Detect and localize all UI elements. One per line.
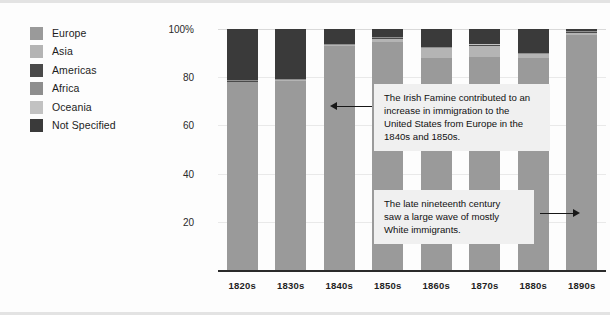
bar-segment (227, 82, 258, 270)
legend-item-label: Not Specified (52, 119, 116, 132)
annotation-line: United States from Europe in the (384, 117, 541, 130)
legend-item-label: Europe (52, 27, 86, 40)
bar-segment (324, 29, 355, 44)
annotation-line: The Irish Famine contributed to an (384, 91, 541, 104)
legend-item-label: Americas (52, 64, 97, 77)
annotation-line: saw a large wave of mostly (384, 210, 525, 223)
bar-segment (566, 35, 597, 270)
bar-segment (275, 81, 306, 270)
legend-item-label: Oceania (52, 101, 92, 114)
annotation-late-nineteenth-century: The late nineteenth centurysaw a large w… (374, 190, 534, 244)
legend-item-label: Asia (52, 45, 73, 58)
stacked-bar[interactable] (324, 29, 355, 270)
bar-segment (469, 46, 500, 57)
annotation-arrow-right (540, 208, 580, 218)
legend-item-label: Africa (52, 82, 79, 95)
bar-segment (518, 29, 549, 53)
y-axis-tick-label: 40 (160, 168, 194, 179)
stacked-bar[interactable] (227, 29, 258, 270)
chart-plot-area: 100%80604020 1820s1830s1840s1850s1860s18… (196, 0, 610, 315)
annotation-line: White immigrants. (384, 223, 525, 236)
x-axis-tick-label: 1890s (552, 280, 610, 291)
legend-swatch-icon (30, 119, 43, 132)
annotation-irish-famine: The Irish Famine contributed to anincrea… (374, 84, 550, 151)
x-axis-line (218, 270, 606, 272)
bar-segment (324, 46, 355, 270)
legend-swatch-icon (30, 27, 43, 40)
y-axis-tick-label: 80 (160, 72, 194, 83)
chart-page: EuropeAsiaAmericasAfricaOceaniaNot Speci… (0, 0, 610, 315)
y-axis-tick-label: 100% (160, 24, 194, 35)
legend-swatch-icon (30, 101, 43, 114)
y-axis-labels: 100%80604020 (158, 0, 194, 315)
annotation-line: 1840s and 1850s. (384, 130, 541, 143)
annotation-arrow-left (330, 101, 372, 111)
bar-segment (227, 29, 258, 80)
stacked-bar[interactable] (566, 29, 597, 270)
bar-segment (372, 29, 403, 37)
y-axis-tick-label: 20 (160, 216, 194, 227)
legend-swatch-icon (30, 64, 43, 77)
bar-segment (421, 29, 452, 47)
y-axis-tick-label: 60 (160, 120, 194, 131)
legend-swatch-icon (30, 82, 43, 95)
bar-segment (469, 29, 500, 44)
legend-swatch-icon (30, 45, 43, 58)
annotation-line: The late nineteenth century (384, 197, 525, 210)
stacked-bar[interactable] (275, 29, 306, 270)
bar-segment (275, 29, 306, 79)
bar-segment (421, 48, 452, 58)
annotation-line: increase in immigration to the (384, 104, 541, 117)
